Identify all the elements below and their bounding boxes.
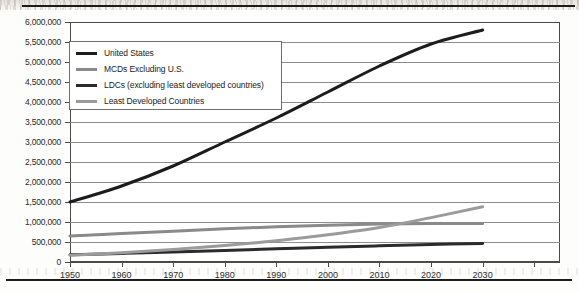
y-tick-label: 0 [0,257,61,267]
legend-color-swatch [76,100,97,103]
horizontal-rule-top [22,5,575,7]
x-tick-mark [328,262,329,267]
y-tick-label: 1,000,000 [0,217,61,227]
page-root: 0500,0001,000,0001,500,0002,000,0002,500… [0,0,579,292]
legend-item: Least Developed Countries [76,94,204,108]
line-chart: 0500,0001,000,0001,500,0002,000,0002,500… [0,12,579,270]
x-tick-mark [70,262,71,267]
chart-legend: United StatesMCDs Excluding U.S.LDCs (ex… [69,41,282,110]
scanned-paper-texture-bottom [0,268,579,275]
legend-item-label: MCDs Excluding U.S. [104,64,184,74]
y-tick-label: 6,000,000 [0,17,61,27]
x-tick-mark [379,262,380,267]
x-tick-mark [276,262,277,267]
horizontal-rule-bottom [6,279,572,281]
legend-item-label: LDCs (excluding least developed countrie… [104,80,264,90]
x-tick-mark [431,262,432,267]
y-tick-label: 2,500,000 [0,157,61,167]
legend-item: MCDs Excluding U.S. [76,62,184,76]
y-tick-label: 1,500,000 [0,197,61,207]
y-tick-label: 3,000,000 [0,137,61,147]
y-tick-label: 4,000,000 [0,97,61,107]
legend-item-label: United States [104,48,154,58]
legend-color-swatch [76,84,97,87]
legend-item: United States [76,46,154,60]
y-tick-label: 4,500,000 [0,77,61,87]
y-tick-label: 5,000,000 [0,57,61,67]
x-tick-mark [173,262,174,267]
legend-color-swatch [76,68,97,71]
x-tick-mark [225,262,226,267]
y-tick-label: 2,000,000 [0,177,61,187]
gridline [70,262,560,263]
legend-color-swatch [76,52,97,55]
legend-item-label: Least Developed Countries [104,96,204,106]
x-tick-mark [122,262,123,267]
y-tick-label: 500,000 [0,237,61,247]
x-tick-mark [483,262,484,267]
legend-item: LDCs (excluding least developed countrie… [76,78,264,92]
x-tick-mark [534,262,535,267]
y-tick-label: 3,500,000 [0,117,61,127]
series-line [70,224,483,236]
y-tick-label: 5,500,000 [0,37,61,47]
